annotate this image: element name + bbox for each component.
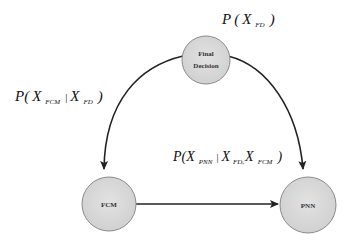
bayesian-network-diagram: Final Decision FCM PNN <box>0 0 344 240</box>
variable: X <box>70 88 79 104</box>
node-label: FCM <box>101 201 117 209</box>
subscript: FD, <box>233 158 244 166</box>
variable: X <box>32 88 41 104</box>
paren-close: ) <box>270 11 275 27</box>
node-label: PNN <box>301 202 315 210</box>
prob-symbol: P <box>173 149 182 164</box>
subscript: FD <box>255 21 264 29</box>
node-label-line1: Final <box>198 50 214 58</box>
paren-open: ( <box>234 11 239 27</box>
node-label-line2: Decision <box>193 62 218 70</box>
edge-fd-to-fcm <box>104 56 183 169</box>
prob-symbol: P <box>15 88 24 104</box>
subscript: FCM <box>45 98 60 106</box>
subscript: FD <box>84 98 93 106</box>
subscript: FCM <box>258 158 273 166</box>
given-bar: | <box>65 91 67 103</box>
variable: X <box>242 11 251 27</box>
paren-close: ) <box>98 88 103 104</box>
prob-symbol: P <box>222 11 231 27</box>
node-final-decision[interactable]: Final Decision <box>182 36 230 84</box>
paren-close: ) <box>277 149 282 164</box>
paren-open: ( <box>24 88 29 104</box>
variable: X <box>221 149 230 164</box>
label-p-pnn-given-fd-fcm: P(XPNN|XFD,XFCM) <box>173 150 282 166</box>
node-circle <box>182 36 230 84</box>
variable: X <box>245 149 254 164</box>
given-bar: | <box>216 152 218 163</box>
variable: X <box>186 149 195 164</box>
label-p-fcm-given-fd: P(XFCM|XFD) <box>15 89 103 106</box>
subscript: PNN <box>199 158 213 166</box>
node-fcm[interactable]: FCM <box>82 177 136 231</box>
node-pnn[interactable]: PNN <box>280 177 336 233</box>
label-p-fd: P(XFD) <box>222 12 275 29</box>
